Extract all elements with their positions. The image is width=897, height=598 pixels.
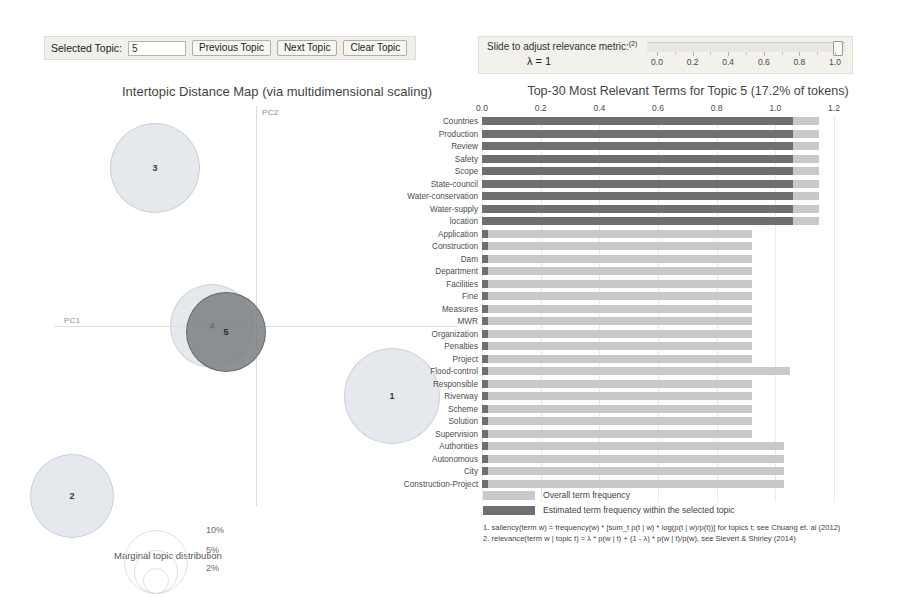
overall-frequency-bar[interactable] xyxy=(482,480,784,488)
term-label[interactable]: Responsible xyxy=(433,380,478,389)
term-label[interactable]: Water-supply xyxy=(430,205,478,214)
topic-frequency-bar[interactable] xyxy=(482,305,488,313)
overall-frequency-bar[interactable] xyxy=(482,417,752,425)
bar-row[interactable]: State-council xyxy=(470,180,897,193)
topic-frequency-bar[interactable] xyxy=(482,217,793,225)
bar-row[interactable]: Facilities xyxy=(470,280,897,293)
topic-frequency-bar[interactable] xyxy=(482,292,488,300)
topic-frequency-bar[interactable] xyxy=(482,242,488,250)
term-label[interactable]: Penalties xyxy=(444,342,478,351)
bar-row[interactable]: Autonomous xyxy=(470,455,897,468)
clear-topic-button[interactable]: Clear Topic xyxy=(343,40,407,56)
topic-frequency-bar[interactable] xyxy=(482,392,488,400)
overall-frequency-bar[interactable] xyxy=(482,405,752,413)
term-label[interactable]: Riverway xyxy=(444,392,478,401)
topic-frequency-bar[interactable] xyxy=(482,455,488,463)
overall-frequency-bar[interactable] xyxy=(482,230,752,238)
bar-row[interactable]: Penalties xyxy=(470,342,897,355)
overall-frequency-bar[interactable] xyxy=(482,317,752,325)
topic-frequency-bar[interactable] xyxy=(482,267,488,275)
bar-row[interactable]: Authorities xyxy=(470,442,897,455)
term-label[interactable]: Dam xyxy=(461,255,478,264)
bar-row[interactable]: Review xyxy=(470,142,897,155)
term-label[interactable]: Measures xyxy=(442,305,478,314)
bar-row[interactable]: Water-supply xyxy=(470,205,897,218)
bar-row[interactable]: Construction xyxy=(470,242,897,255)
topic-frequency-bar[interactable] xyxy=(482,330,488,338)
topic-frequency-bar[interactable] xyxy=(482,467,488,475)
term-label[interactable]: Supervision xyxy=(435,430,478,439)
overall-frequency-bar[interactable] xyxy=(482,455,784,463)
topic-frequency-bar[interactable] xyxy=(482,130,793,138)
bar-row[interactable]: Flood-control xyxy=(470,367,897,380)
bar-row[interactable]: Measures xyxy=(470,305,897,318)
next-topic-button[interactable]: Next Topic xyxy=(277,40,338,56)
bar-row[interactable]: Countries xyxy=(470,117,897,130)
selected-topic-input[interactable] xyxy=(128,41,186,56)
topic-frequency-bar[interactable] xyxy=(482,192,793,200)
overall-frequency-bar[interactable] xyxy=(482,430,752,438)
bar-row[interactable]: Water-conservation xyxy=(470,192,897,205)
overall-frequency-bar[interactable] xyxy=(482,380,752,388)
bar-row[interactable]: location xyxy=(470,217,897,230)
term-label[interactable]: City xyxy=(464,467,478,476)
overall-frequency-bar[interactable] xyxy=(482,442,784,450)
topic-frequency-bar[interactable] xyxy=(482,417,488,425)
bar-row[interactable]: MWR xyxy=(470,317,897,330)
term-label[interactable]: MWR xyxy=(458,317,478,326)
topic-frequency-bar[interactable] xyxy=(482,355,488,363)
bar-row[interactable]: Scheme xyxy=(470,405,897,418)
topic-frequency-bar[interactable] xyxy=(482,367,488,375)
bar-row[interactable]: Supervision xyxy=(470,430,897,443)
bar-row[interactable]: Solution xyxy=(470,417,897,430)
bar-row[interactable]: Project xyxy=(470,355,897,368)
term-label[interactable]: State-council xyxy=(431,180,478,189)
term-label[interactable]: Organization xyxy=(432,330,478,339)
term-label[interactable]: Authorities xyxy=(439,442,478,451)
overall-frequency-bar[interactable] xyxy=(482,342,752,350)
overall-frequency-bar[interactable] xyxy=(482,367,790,375)
topic-frequency-bar[interactable] xyxy=(482,205,793,213)
term-label[interactable]: Solution xyxy=(448,417,478,426)
topic-frequency-bar[interactable] xyxy=(482,380,488,388)
term-label[interactable]: Facilities xyxy=(446,280,478,289)
bar-row[interactable]: Dam xyxy=(470,255,897,268)
term-label[interactable]: Construction-Project xyxy=(404,480,478,489)
overall-frequency-bar[interactable] xyxy=(482,305,752,313)
topic-frequency-bar[interactable] xyxy=(482,142,793,150)
term-label[interactable]: Application xyxy=(438,230,478,239)
topic-frequency-bar[interactable] xyxy=(482,155,793,163)
relevance-slider-track[interactable] xyxy=(647,42,845,52)
topic-frequency-bar[interactable] xyxy=(482,405,488,413)
mds-plot[interactable]: PC2 PC1 34512 Marginal topic distributio… xyxy=(50,104,460,524)
topic-frequency-bar[interactable] xyxy=(482,117,793,125)
topic-frequency-bar[interactable] xyxy=(482,430,488,438)
term-label[interactable]: Project xyxy=(453,355,478,364)
overall-frequency-bar[interactable] xyxy=(482,330,752,338)
term-label[interactable]: Department xyxy=(435,267,478,276)
overall-frequency-bar[interactable] xyxy=(482,392,752,400)
term-label[interactable]: Scheme xyxy=(448,405,478,414)
bar-row[interactable]: Department xyxy=(470,267,897,280)
term-label[interactable]: Construction xyxy=(432,242,478,251)
bar-row[interactable]: Production xyxy=(470,130,897,143)
term-label[interactable]: Scope xyxy=(455,167,478,176)
overall-frequency-bar[interactable] xyxy=(482,467,784,475)
topic-frequency-bar[interactable] xyxy=(482,280,488,288)
topic-frequency-bar[interactable] xyxy=(482,180,793,188)
topic-frequency-bar[interactable] xyxy=(482,230,488,238)
term-label[interactable]: Fine xyxy=(462,292,478,301)
topic-frequency-bar[interactable] xyxy=(482,342,488,350)
term-label[interactable]: Countries xyxy=(443,117,478,126)
overall-frequency-bar[interactable] xyxy=(482,355,752,363)
bar-row[interactable]: Safety xyxy=(470,155,897,168)
topic-frequency-bar[interactable] xyxy=(482,442,488,450)
overall-frequency-bar[interactable] xyxy=(482,280,752,288)
previous-topic-button[interactable]: Previous Topic xyxy=(192,40,271,56)
bar-row[interactable]: Fine xyxy=(470,292,897,305)
bar-row[interactable]: City xyxy=(470,467,897,480)
term-label[interactable]: Review xyxy=(451,142,478,151)
topic-frequency-bar[interactable] xyxy=(482,480,488,488)
bar-row[interactable]: Responsible xyxy=(470,380,897,393)
term-label[interactable]: Flood-control xyxy=(430,367,478,376)
